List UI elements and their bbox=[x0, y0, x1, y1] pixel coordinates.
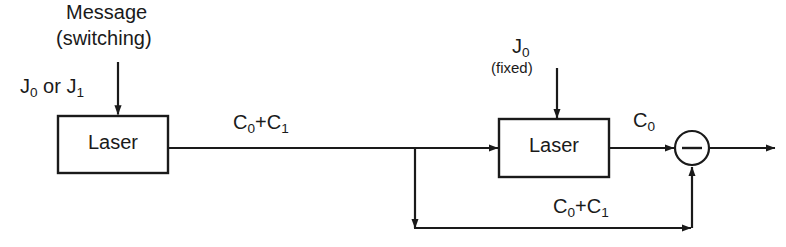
feedback-plus-c: +C bbox=[575, 195, 601, 217]
input-source-j-prefix: J bbox=[20, 75, 30, 97]
output-signal-c0-label: C0 bbox=[633, 110, 655, 133]
switching-label: (switching) bbox=[56, 28, 152, 49]
link-c-symbol: C bbox=[233, 111, 247, 133]
laser1-block-label: Laser bbox=[58, 132, 168, 153]
output-sub-0: 0 bbox=[647, 119, 655, 134]
link-sub-0: 0 bbox=[247, 121, 255, 136]
input-source-sub-0: 0 bbox=[30, 85, 38, 100]
feedback-c-symbol: C bbox=[553, 195, 567, 217]
pump-sub-0: 0 bbox=[522, 45, 530, 60]
pump-fixed-note-label: (fixed) bbox=[491, 60, 533, 76]
output-c-symbol: C bbox=[633, 109, 647, 131]
feedback-signal-c0c1-label: C0+C1 bbox=[553, 196, 609, 219]
link-plus-c: +C bbox=[255, 111, 281, 133]
link-sub-1: 1 bbox=[281, 121, 289, 136]
pump-j-symbol: J bbox=[512, 35, 522, 57]
block-diagram-canvas: Message (switching) J0 or J1 Laser C0+C1… bbox=[0, 0, 786, 247]
feedback-sub-1: 1 bbox=[601, 205, 609, 220]
laser2-block-label: Laser bbox=[499, 135, 609, 156]
input-source-label: J0 or J1 bbox=[20, 76, 84, 99]
pump-source-label: J0 bbox=[512, 36, 530, 59]
input-source-conjunction: or J bbox=[38, 75, 77, 97]
message-label: Message bbox=[66, 2, 147, 23]
input-source-sub-1: 1 bbox=[76, 85, 84, 100]
link-signal-c0c1-label: C0+C1 bbox=[233, 112, 289, 135]
feedback-sub-0: 0 bbox=[567, 205, 575, 220]
